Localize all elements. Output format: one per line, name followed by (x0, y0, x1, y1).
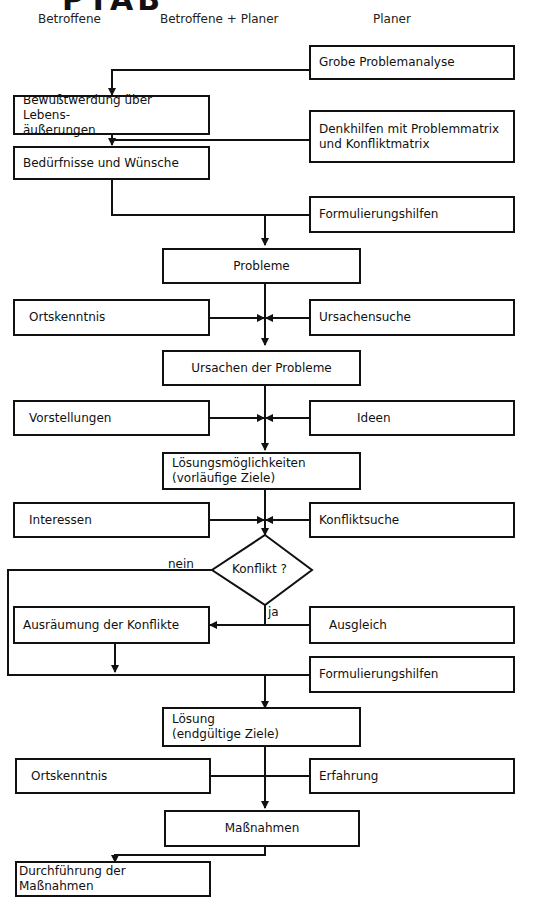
column-header-betroffene-planer: Betroffene + Planer (160, 12, 279, 26)
node-label: Formulierungshilfen (319, 667, 438, 682)
node-ideen: Ideen (309, 400, 515, 436)
node-label-line1: Bewußtwerdung über Lebens- (23, 93, 200, 123)
edge-label-nein: nein (168, 557, 194, 571)
node-label: Vorstellungen (23, 411, 111, 426)
node-label-line2: und Konfliktmatrix (319, 137, 430, 152)
node-label: Ursachen der Probleme (191, 361, 332, 376)
node-probleme: Probleme (162, 248, 361, 284)
node-label: Konfliktsuche (319, 513, 399, 528)
node-label-line1: Denkhilfen mit Problemmatrix (319, 122, 499, 137)
node-erfahrung: Erfahrung (309, 758, 515, 794)
node-formulierungshilfen-1: Formulierungshilfen (309, 196, 515, 233)
node-ortskenntnis-2: Ortskenntnis (15, 758, 211, 794)
node-beduerfnisse: Bedürfnisse und Wünsche (13, 146, 210, 180)
node-label: Probleme (233, 259, 289, 274)
node-bewusstwerdung: Bewußtwerdung über Lebens- äußerungen (13, 95, 210, 135)
node-ursachen-der-probleme: Ursachen der Probleme (162, 350, 361, 386)
node-interessen: Interessen (13, 502, 210, 538)
node-label-line1: Lösungsmöglichkeiten (172, 456, 306, 471)
node-ortskenntnis-1: Ortskenntnis (13, 299, 210, 336)
node-label-line1: Lösung (172, 712, 215, 727)
node-konfliktsuche: Konfliktsuche (309, 502, 515, 538)
node-label: Formulierungshilfen (319, 207, 438, 222)
node-ursachensuche: Ursachensuche (309, 299, 515, 336)
node-label: Ideen (319, 411, 391, 426)
node-label: Ortskenntnis (25, 769, 107, 784)
node-denkhilfen: Denkhilfen mit Problemmatrix und Konflik… (309, 110, 515, 163)
decision-konflikt: Konflikt ? (232, 562, 287, 576)
node-ausraeumung: Ausräumung der Konflikte (13, 606, 210, 644)
node-label: Bedürfnisse und Wünsche (23, 156, 179, 171)
node-loesungsmoeglichkeiten: Lösungsmöglichkeiten (vorläufige Ziele) (162, 452, 361, 490)
node-vorstellungen: Vorstellungen (13, 400, 210, 436)
node-formulierungshilfen-2: Formulierungshilfen (309, 656, 515, 693)
node-label-line2: (vorläufige Ziele) (172, 471, 275, 486)
node-label: Ausräumung der Konflikte (23, 618, 179, 633)
node-label-line2: (endgültige Ziele) (172, 727, 279, 742)
node-label-line2: äußerungen (23, 123, 96, 138)
node-label: Grobe Problemanalyse (319, 55, 455, 70)
node-durchfuehrung: Durchführung der Maßnahmen (15, 861, 211, 897)
node-massnahmen: Maßnahmen (164, 810, 360, 847)
node-label: Interessen (23, 513, 92, 528)
column-header-planer: Planer (373, 12, 411, 26)
node-label: Erfahrung (319, 769, 378, 784)
node-label: Maßnahmen (225, 821, 300, 836)
node-label: Durchführung der Maßnahmen (19, 864, 201, 894)
node-loesung: Lösung (endgültige Ziele) (162, 707, 361, 747)
column-header-betroffene: Betroffene (38, 12, 101, 26)
node-label: Ortskenntnis (23, 310, 105, 325)
node-label: Ausgleich (319, 618, 387, 633)
node-ausgleich: Ausgleich (309, 606, 515, 644)
node-label: Ursachensuche (319, 310, 411, 325)
edge-label-ja: ja (268, 605, 279, 619)
node-grobe-problemanalyse: Grobe Problemanalyse (309, 45, 515, 80)
